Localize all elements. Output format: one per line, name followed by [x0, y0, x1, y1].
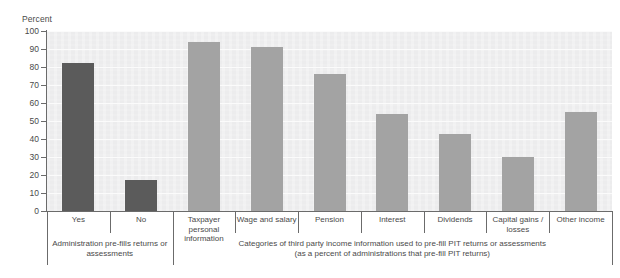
bar: [62, 63, 94, 211]
y-axis-tick: [41, 121, 46, 122]
category-separator: [612, 211, 613, 233]
y-axis-tick: [41, 31, 46, 32]
category-label: Yes: [47, 215, 110, 225]
category-label-line: Interest: [361, 215, 424, 225]
y-axis-tick: [41, 193, 46, 194]
y-axis-tick: [41, 85, 46, 86]
y-axis-label: 70: [0, 80, 39, 90]
y-axis-tick: [41, 139, 46, 140]
group-caption-line: Categories of third party income informa…: [173, 239, 612, 249]
category-label-line: Capital gains /: [486, 215, 549, 225]
category-label-line: Taxpayer personal: [173, 215, 236, 234]
y-axis-tick: [41, 103, 46, 104]
bar: [439, 134, 471, 211]
group-caption-line: (as a percent of administrations that pr…: [173, 249, 612, 259]
y-axis-tick: [41, 67, 46, 68]
gridline: [47, 67, 612, 68]
category-label-line: Wage and salary: [235, 215, 298, 225]
group-bracket: [612, 233, 613, 265]
category-label-line: Other income: [549, 215, 612, 225]
bar: [314, 74, 346, 211]
bar: [188, 42, 220, 211]
y-axis-label: 60: [0, 98, 39, 108]
plot-area: [47, 31, 612, 211]
y-axis-label: 0: [0, 206, 39, 216]
bar: [251, 47, 283, 211]
group-caption: Categories of third party income informa…: [173, 239, 612, 258]
category-label: Other income: [549, 215, 612, 225]
y-axis-label: 90: [0, 44, 39, 54]
group-caption-line: assessments: [47, 249, 173, 259]
y-axis-title: Percent: [22, 14, 52, 24]
category-label: Wage and salary: [235, 215, 298, 225]
category-label-line: Dividends: [424, 215, 487, 225]
y-axis-tick: [41, 49, 46, 50]
category-label: Dividends: [424, 215, 487, 225]
category-label: No: [110, 215, 173, 225]
group-caption: Administration pre-fills returns orasses…: [47, 239, 173, 258]
x-axis-line: [46, 211, 612, 212]
group-caption-line: Administration pre-fills returns or: [47, 239, 173, 249]
y-axis-label: 100: [0, 26, 39, 36]
y-axis-label: 40: [0, 134, 39, 144]
y-axis-label: 10: [0, 188, 39, 198]
category-label: Interest: [361, 215, 424, 225]
y-axis-label: 30: [0, 152, 39, 162]
category-label: Capital gains /losses: [486, 215, 549, 234]
bar: [502, 157, 534, 211]
y-axis-label: 20: [0, 170, 39, 180]
y-axis-tick: [41, 175, 46, 176]
bar: [125, 180, 157, 211]
category-label-line: Yes: [47, 215, 110, 225]
y-axis-label: 80: [0, 62, 39, 72]
bar-chart: Percent 1009080706050403020100 YesNoTaxp…: [0, 0, 620, 278]
gridline: [47, 31, 612, 32]
bar: [376, 114, 408, 211]
bar: [565, 112, 597, 211]
category-label-line: Pension: [298, 215, 361, 225]
y-axis-tick: [41, 157, 46, 158]
category-label: Pension: [298, 215, 361, 225]
category-label-line: losses: [486, 225, 549, 235]
y-axis-label: 50: [0, 116, 39, 126]
y-axis-line: [46, 30, 47, 212]
category-label-line: No: [110, 215, 173, 225]
gridline: [47, 49, 612, 50]
